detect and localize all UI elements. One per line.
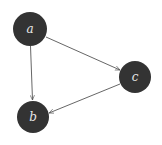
edge-c-to-b	[49, 84, 120, 113]
edge-a-to-c	[46, 37, 120, 70]
node-a-label: a	[26, 22, 33, 36]
graph-canvas: a b c	[0, 0, 162, 145]
edge-a-to-b	[31, 46, 33, 100]
node-b[interactable]: b	[17, 101, 49, 133]
node-b-label: b	[29, 110, 37, 124]
node-c[interactable]: c	[119, 61, 151, 93]
node-c-label: c	[132, 70, 139, 84]
node-a[interactable]: a	[13, 12, 47, 46]
